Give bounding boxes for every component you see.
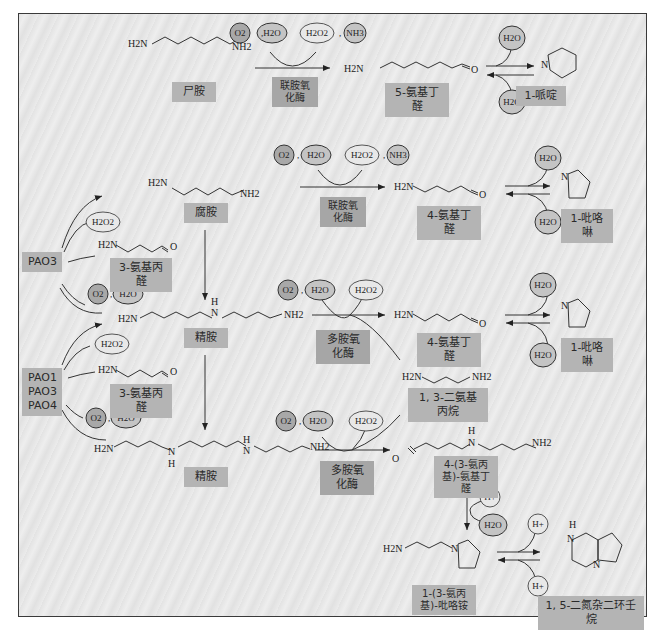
svg-text:NH3: NH3 [346,28,364,38]
label-4-aminobutanal-2: 4-氨基丁醛 [417,333,481,367]
svg-text:N: N [243,445,250,456]
svg-text:O2: O2 [91,413,102,423]
label-3-aminopropanal-1: 3-氨基丙醛 [110,258,172,292]
label-aminopropyl-aminobutanal: 4-(3-氨丙基)-氨基丁醛 [434,456,498,498]
svg-text:H2N: H2N [394,181,413,192]
svg-text:H2O2: H2O2 [355,416,377,426]
svg-text:,: , [301,285,303,295]
svg-text:,: , [299,416,301,426]
svg-text:H2O2: H2O2 [92,217,114,227]
svg-text:H: H [211,296,218,307]
svg-text:N: N [168,446,175,457]
svg-text:H2N: H2N [394,309,413,320]
svg-text:H2O2: H2O2 [351,150,373,160]
svg-text:H2O2: H2O2 [101,339,123,349]
svg-text:N: N [468,437,475,448]
svg-text:NH3: NH3 [389,150,407,160]
svg-text:O: O [392,453,399,464]
svg-text:H: H [468,425,475,436]
label-3-aminopropanal-2: 3-氨基丙醛 [110,384,172,418]
svg-text:O2: O2 [279,150,290,160]
svg-text:N: N [541,59,548,70]
svg-text:H2O: H2O [263,28,281,38]
svg-text:N: N [211,307,218,318]
svg-text:H: H [168,458,175,469]
label-pao4: PAO4 [28,399,56,413]
svg-text:H2N: H2N [402,371,421,382]
cofactor-circles [86,23,561,596]
svg-text:,: , [297,150,299,160]
label-spermidine: 精胺 [184,328,228,348]
svg-text:H2O2: H2O2 [355,285,377,295]
svg-text:H2O2: H2O2 [306,28,328,38]
label-pao3: PAO3 [22,252,62,272]
svg-text:O: O [479,318,486,329]
svg-text:O: O [170,241,177,252]
svg-text:NH2: NH2 [232,41,251,52]
label-5-aminobutanal: 5-氨基丁醛 [385,83,449,117]
svg-text:H2N: H2N [128,38,147,49]
svg-text:,: , [383,150,385,160]
svg-text:H2N: H2N [383,543,402,554]
label-cadaverine: 尸胺 [172,82,216,102]
label-1-pyrroline-1: 1-吡咯啉 [561,209,613,243]
svg-text:H: H [243,434,250,445]
svg-text:H+: H+ [532,519,544,529]
svg-text:O: O [170,366,177,377]
svg-text:O2: O2 [281,416,292,426]
svg-text:H2N: H2N [344,63,363,74]
svg-text:H2N: H2N [118,313,137,324]
svg-text:H2O: H2O [539,217,557,227]
svg-text:NH2: NH2 [240,188,259,199]
svg-text:N: N [561,300,568,311]
svg-text:H2N: H2N [148,177,167,188]
svg-text:O2: O2 [283,285,294,295]
svg-text:H2O: H2O [309,416,327,426]
svg-text:H2O: H2O [534,350,552,360]
label-1-piperideine: 1-哌啶 [516,86,566,106]
svg-text:H2N: H2N [94,443,113,454]
label-putrescine: 腐胺 [184,203,228,223]
label-pao-group: PAO1 PAO3 PAO4 [22,368,62,416]
svg-text:H2O: H2O [484,520,502,530]
label-polyamine-oxidase-1: 多胺氧化酶 [316,330,370,364]
svg-text:N: N [451,543,458,554]
o2-text: O2 [235,28,246,38]
svg-text:H2O: H2O [307,150,325,160]
svg-text:,: , [339,28,341,38]
svg-text:NH2: NH2 [532,437,551,448]
label-polyamine-oxidase-2: 多胺氧化酶 [320,461,374,495]
label-1-3-diaminopropane: 1, 3-二氨基丙烷 [408,388,488,422]
svg-text:H2O: H2O [539,153,557,163]
svg-text:H+: H+ [532,581,544,591]
label-spermine: 精胺 [184,467,228,487]
label-pao3b: PAO3 [28,385,56,399]
svg-text:N: N [561,171,568,182]
svg-text:O: O [479,189,486,200]
svg-text:H: H [569,519,576,530]
svg-text:N: N [567,533,574,544]
svg-text:NH2: NH2 [284,309,303,320]
label-diazabicyclononane: 1, 5-二氮杂二环壬烷 [538,596,644,630]
svg-text:H2O: H2O [311,285,329,295]
svg-text:N: N [593,559,600,570]
svg-text:H2N: H2N [98,239,117,250]
svg-text:O: O [471,64,478,75]
label-aminopropyl-pyrrolinium: 1-(3-氨丙基)-吡咯铵 [412,585,476,615]
label-1-pyrroline-2: 1-吡咯啉 [561,338,613,372]
label-pao1: PAO1 [28,371,56,385]
svg-text:H2N: H2N [98,364,117,375]
label-4-aminobutanal-1: 4-氨基丁醛 [417,206,481,240]
svg-text:NH2: NH2 [472,371,491,382]
label-diamine-oxidase-1: 联胺氧化酶 [272,77,318,107]
label-diamine-oxidase-2: 联胺氧化酶 [320,197,366,227]
cadaverine-chain [152,37,243,44]
svg-text:H2O: H2O [503,33,521,43]
svg-text:NH2: NH2 [310,441,329,452]
svg-text:H2O: H2O [534,280,552,290]
svg-text:O2: O2 [93,289,104,299]
